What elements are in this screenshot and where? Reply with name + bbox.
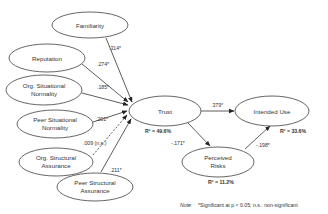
coef-reputation: .274*: [97, 61, 109, 67]
node-intended-use: Intended Use R² = 33.6%: [235, 96, 309, 134]
node-trust: Trust R² = 49.6%: [129, 96, 201, 134]
note-text: *Significant at p < 0.05; n.s.: non-sign…: [198, 202, 298, 208]
sem-diagram: .314* .274* .185* .201* .009 (n.s.) .211…: [0, 0, 328, 214]
node-org-situational-normality: Org. Situational Normality: [6, 75, 82, 105]
reputation-label: Reputation: [32, 55, 62, 62]
edge-reputation-trust: [82, 64, 128, 102]
org-structural-assurance-label-2: Assurance: [41, 162, 71, 169]
node-familiarity: Familiarity: [52, 12, 128, 38]
edge-org-situational-trust: [82, 93, 128, 105]
intended-use-label: Intended Use: [254, 108, 291, 115]
org-situational-normality-label-1: Org. Situational: [23, 82, 66, 89]
node-reputation: Reputation: [9, 44, 85, 72]
peer-situational-normality-label-1: Peer Situational: [33, 116, 77, 123]
peer-structural-assurance-label-2: Assurance: [80, 187, 110, 194]
org-structural-assurance-label-1: Org. Structural: [36, 154, 76, 161]
perceived-risks-r2: R² = 11.2%: [208, 179, 234, 185]
node-peer-situational-normality: Peer Situational Normality: [17, 110, 93, 138]
coef-peer-situational: .201*: [96, 116, 108, 122]
coef-perceived-risks-intended-use: -.198*: [256, 142, 270, 148]
peer-situational-normality-label-2: Normality: [42, 124, 69, 131]
peer-structural-assurance-label-1: Peer Structural: [74, 179, 115, 186]
coef-org-structural: .009 (n.s.): [83, 140, 107, 146]
coef-trust-perceived-risks: -.171*: [171, 140, 185, 146]
familiarity-label: Familiarity: [76, 22, 105, 29]
coef-trust-intended-use: .379*: [211, 102, 223, 108]
perceived-risks-label-2: Risks: [210, 162, 225, 169]
org-situational-normality-label-2: Normality: [31, 90, 58, 97]
node-org-structural-assurance: Org. Structural Assurance: [19, 148, 93, 176]
coef-peer-structural: .211*: [110, 167, 122, 173]
footnote: Note: *Significant at p < 0.05; n.s.: no…: [180, 202, 298, 208]
trust-label: Trust: [158, 108, 172, 115]
note-prefix: Note:: [180, 202, 193, 208]
coef-familiarity: .314*: [109, 45, 121, 51]
perceived-risks-label-1: Perceived: [204, 154, 232, 161]
node-perceived-risks: Perceived Risks R² = 11.2%: [182, 147, 254, 185]
coef-org-situational: .185*: [97, 84, 109, 90]
edge-trust-perceived-risks: [188, 123, 210, 146]
node-peer-structural-assurance: Peer Structural Assurance: [57, 173, 133, 201]
intended-use-r2: R² = 33.6%: [280, 128, 306, 134]
trust-r2: R² = 49.6%: [145, 128, 171, 134]
